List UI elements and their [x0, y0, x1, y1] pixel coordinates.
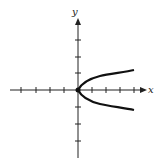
y-axis-label: y — [71, 6, 78, 17]
x-axis-arrow-icon — [140, 87, 147, 93]
origin-point — [76, 88, 81, 93]
y-axis-arrow-icon — [75, 18, 81, 25]
graph: x y — [0, 0, 158, 158]
x-axis-label: x — [148, 84, 154, 95]
